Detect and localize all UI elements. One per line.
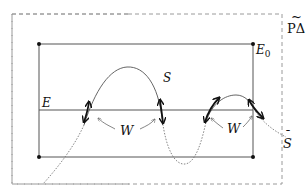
label-region-tilde: ~: [291, 10, 302, 23]
corner-point-top-right: [251, 42, 255, 46]
curve-S-hump-left: [84, 67, 162, 125]
label-E0-main: E: [256, 43, 265, 57]
label-W-right: W: [227, 122, 240, 135]
label-E0: E0: [256, 44, 271, 59]
w-right-pointer-1: [211, 118, 223, 128]
corner-point-bottom-left: [37, 155, 41, 159]
corner-point-top-left: [37, 42, 41, 46]
label-E0-subscript: 0: [265, 49, 271, 59]
crossing-arrow-4: [249, 100, 263, 118]
label-W-left: W: [120, 124, 133, 137]
region-boundary: [12, 14, 128, 184]
corner-point-bottom-right: [251, 155, 255, 159]
curve-S-tail-dotted: [43, 125, 84, 184]
dashed-border: [12, 14, 129, 184]
w-left-pointer-1: [98, 118, 115, 129]
crossing-arrow-2: [160, 100, 163, 123]
label-E: E: [42, 97, 51, 109]
w-left-pointer-2: [140, 119, 155, 129]
label-S-bar-accent: ¯: [285, 130, 291, 142]
dashed-border-full: [12, 14, 282, 184]
label-S: S: [163, 72, 171, 84]
curve-S-hump-right: [206, 95, 256, 122]
w-right-pointer-2: [243, 116, 252, 127]
